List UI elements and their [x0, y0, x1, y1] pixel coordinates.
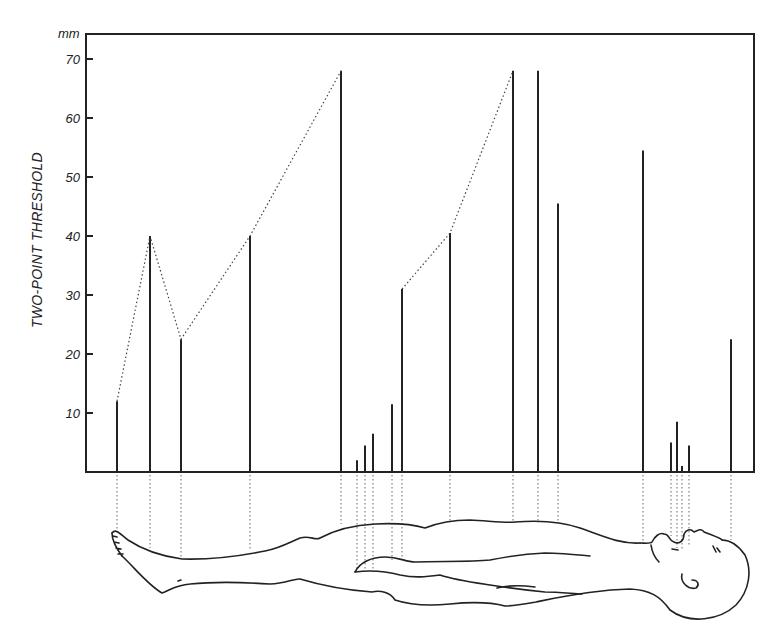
ankle-mark	[178, 580, 181, 581]
arm-lower-outline	[355, 571, 582, 594]
mouth-line	[672, 549, 678, 550]
leader-lines	[117, 475, 731, 572]
bar-series	[117, 71, 731, 472]
plot-frame	[86, 34, 754, 472]
y-axis-unit-label: mm	[58, 26, 80, 41]
chin-line	[651, 545, 659, 562]
y-tick-label: 70	[66, 52, 81, 67]
y-tick-label: 20	[65, 347, 81, 362]
y-axis: 10203040506070	[65, 52, 93, 421]
arm-fold	[497, 586, 535, 588]
eye	[713, 546, 720, 552]
dotted-connector	[402, 71, 513, 289]
ear	[682, 574, 698, 588]
body-outline-bottom	[122, 540, 749, 619]
y-tick-label: 10	[66, 406, 81, 421]
toes	[112, 533, 123, 556]
y-tick-label: 40	[66, 229, 81, 244]
human-body-illustration	[112, 520, 749, 619]
y-tick-label: 50	[66, 170, 81, 185]
y-tick-label: 30	[66, 288, 81, 303]
arm-outline	[355, 553, 590, 572]
face-outline	[640, 530, 722, 544]
y-axis-title: TWO-POINT THRESHOLD	[29, 152, 45, 328]
connector-lines	[117, 71, 513, 401]
y-tick-label: 60	[66, 111, 81, 126]
two-point-threshold-chart: 10203040506070 mm TWO-POINT THRESHOLD	[0, 0, 782, 643]
